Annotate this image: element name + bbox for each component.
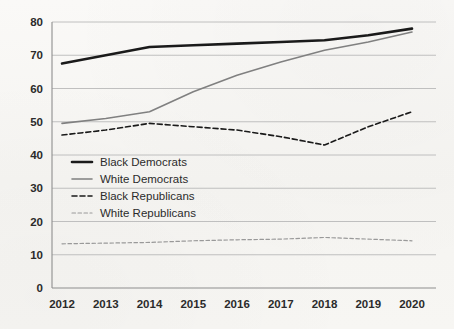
series-line-white-republicans xyxy=(62,237,412,243)
x-tick-label: 2016 xyxy=(224,298,250,310)
legend-label: White Democrats xyxy=(100,173,188,185)
y-tick-label: 60 xyxy=(30,83,43,95)
series-line-black-democrats xyxy=(62,29,412,64)
x-axis: 201220132014201520162017201820192020 xyxy=(49,298,425,310)
y-tick-label: 70 xyxy=(30,49,43,61)
x-tick-label: 2014 xyxy=(137,298,163,310)
x-tick-label: 2018 xyxy=(312,298,338,310)
x-tick-label: 2020 xyxy=(399,298,425,310)
x-tick-label: 2017 xyxy=(268,298,294,310)
chart-legend: Black DemocratsWhite DemocratsBlack Repu… xyxy=(72,156,196,219)
y-tick-label: 30 xyxy=(30,182,43,194)
y-axis: 01020304050607080 xyxy=(30,16,52,294)
x-tick-label: 2013 xyxy=(93,298,119,310)
legend-label: White Republicans xyxy=(100,207,196,219)
legend-label: Black Democrats xyxy=(100,156,187,168)
legend-label: Black Republicans xyxy=(100,190,195,202)
y-tick-label: 40 xyxy=(30,149,43,161)
y-tick-label: 50 xyxy=(30,116,43,128)
y-tick-label: 20 xyxy=(30,216,43,228)
x-tick-label: 2015 xyxy=(180,298,206,310)
x-tick-label: 2019 xyxy=(355,298,381,310)
gridlines xyxy=(52,22,436,288)
y-tick-label: 80 xyxy=(30,16,43,28)
y-tick-label: 10 xyxy=(30,249,43,261)
y-tick-label: 0 xyxy=(37,282,43,294)
x-tick-label: 2012 xyxy=(49,298,75,310)
chart-page: 01020304050607080 2012201320142015201620… xyxy=(0,0,454,329)
line-chart: 01020304050607080 2012201320142015201620… xyxy=(0,0,454,329)
series-line-white-democrats xyxy=(62,32,412,123)
